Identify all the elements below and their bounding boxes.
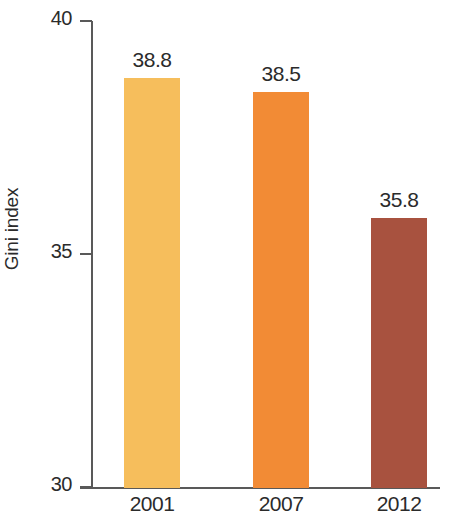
x-tick-label: 2001: [92, 492, 212, 516]
y-axis-title: Gini index: [1, 179, 23, 279]
plot-area: 38.838.535.8: [92, 21, 440, 488]
y-tick-mark: [80, 20, 92, 22]
y-tick-mark: [80, 253, 92, 255]
bar-value-label: 38.8: [92, 48, 212, 72]
x-tick-label: 2012: [339, 492, 450, 516]
bar-chart: Gini index 303540 38.838.535.8 200120072…: [0, 0, 450, 520]
bar: [124, 78, 180, 488]
y-tick-mark: [80, 486, 92, 488]
bar-value-label: 35.8: [339, 188, 450, 212]
y-tick-label: 35: [12, 240, 72, 263]
x-tick-label: 2007: [221, 492, 341, 516]
bar-group: 38.8: [124, 78, 180, 488]
bar: [371, 218, 427, 488]
bar: [253, 92, 309, 488]
y-tick-label: 40: [12, 7, 72, 30]
bar-group: 35.8: [371, 218, 427, 488]
y-tick-label: 30: [12, 473, 72, 496]
bar-value-label: 38.5: [221, 62, 341, 86]
bar-group: 38.5: [253, 92, 309, 488]
